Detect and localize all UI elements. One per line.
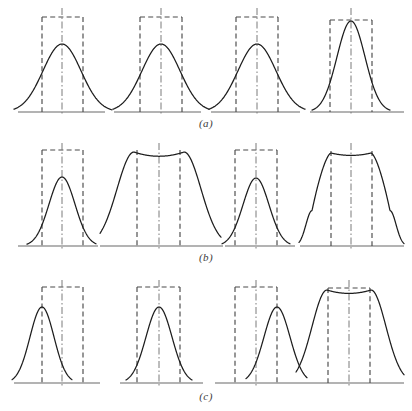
response-curve: [14, 44, 112, 110]
panel-c-2: [120, 280, 203, 387]
panel-a-2: [113, 8, 209, 116]
row-c: [12, 280, 404, 387]
panel-c-1: [12, 280, 100, 387]
panel-b-3: [222, 143, 295, 250]
panel-c-4: [296, 280, 404, 387]
caption-c: (c): [199, 390, 212, 402]
panel-b-2: [100, 143, 223, 250]
row-b: [18, 143, 404, 250]
panel-b-1: [18, 143, 98, 250]
response-curve: [12, 307, 72, 380]
panel-a-4: [310, 8, 404, 116]
panel-c-3: [215, 280, 307, 387]
panel-b-4: [299, 143, 404, 250]
caption-b: (b): [199, 251, 213, 263]
row-a: [14, 8, 404, 116]
panel-a-3: [209, 8, 305, 116]
response-curve: [296, 290, 404, 375]
figure-container: (a)(b)(c): [0, 0, 412, 411]
response-curve: [100, 152, 221, 237]
figure-canvas: [0, 0, 412, 411]
caption-a: (a): [199, 117, 213, 129]
panel-a-1: [14, 8, 112, 116]
